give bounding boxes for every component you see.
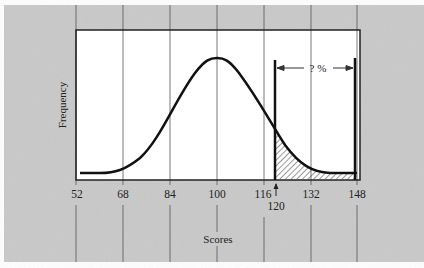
bracket-label: ? % [310, 62, 327, 74]
tick-label: 52 [71, 188, 83, 200]
marker-label: 120 [267, 200, 285, 212]
tick-label: 68 [117, 188, 129, 200]
tick-label: 84 [164, 188, 176, 200]
y-axis-label: Frequency [56, 81, 68, 128]
tick-label: 116 [255, 188, 272, 200]
x-axis-label: Scores [203, 233, 232, 245]
tick-label: 132 [302, 188, 320, 200]
normal-distribution-figure: ? % Frequency 52 68 84 100 116 132 148 1… [0, 0, 424, 268]
plot-area [76, 30, 360, 180]
tick-label: 148 [348, 188, 366, 200]
tick-label: 100 [208, 188, 226, 200]
